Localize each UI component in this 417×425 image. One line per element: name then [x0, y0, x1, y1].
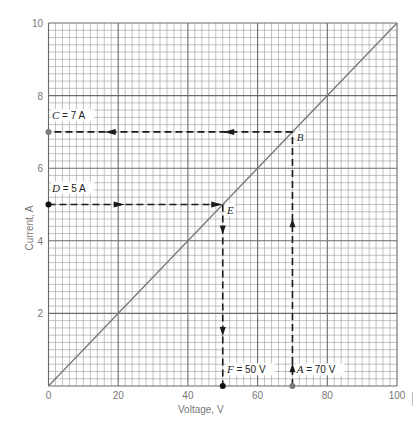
point-label: F = 50 V [226, 363, 266, 375]
y-tick-label: 2 [37, 308, 43, 319]
arrowhead-up-icon [289, 363, 295, 372]
x-tick-label: 40 [182, 390, 194, 401]
iv-chart: C = 7 AD = 5 ABEF = 50 VA = 70 V 0204060… [0, 0, 417, 425]
point-F [220, 383, 226, 389]
arrowhead-down-icon [220, 327, 226, 336]
x-tick-label: 20 [113, 390, 125, 401]
x-axis-label: Voltage, V [178, 404, 224, 415]
y-tick-label: 4 [37, 236, 43, 247]
chart-plot-area: C = 7 AD = 5 ABEF = 50 VA = 70 V 0204060… [0, 0, 417, 425]
point-A [289, 383, 295, 389]
x-tick-label: 100 [389, 390, 406, 401]
arrowhead-down-icon [220, 225, 226, 234]
point-label: B [297, 131, 304, 143]
y-axis-label: Current, A [24, 205, 35, 250]
arrowhead-right-icon [114, 202, 125, 208]
y-tick-label: 8 [37, 91, 43, 102]
y-tick-label: 6 [37, 163, 43, 174]
y-tick-label: 10 [32, 18, 44, 29]
x-tick-label: 80 [322, 390, 334, 401]
arrowhead-left-icon [105, 129, 116, 135]
point-label: E [226, 204, 234, 216]
point-C [46, 129, 52, 135]
arrowhead-up-icon [289, 218, 295, 227]
scan-edge-mark [412, 392, 417, 406]
point-label: C = 7 A [52, 109, 86, 121]
point-label: A = 70 V [296, 363, 336, 375]
point-label: D = 5 A [51, 182, 86, 194]
x-tick-label: 0 [46, 390, 52, 401]
arrowhead-left-icon [223, 129, 234, 135]
point-D [46, 202, 52, 208]
x-tick-label: 60 [252, 390, 264, 401]
